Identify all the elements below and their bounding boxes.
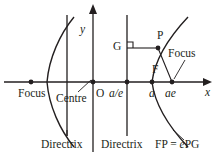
y-axis-label: y <box>80 24 85 36</box>
right-focus-point <box>170 80 175 85</box>
directrix-x-tick-label: a/e <box>109 88 123 100</box>
right-directrix-intercept-point <box>125 80 130 85</box>
focus-x-tick-label: ae <box>165 88 176 100</box>
point-p-label: P <box>157 30 163 42</box>
right-directrix-label: Directrix <box>101 139 143 151</box>
origin-point <box>91 80 96 85</box>
vertex-x-tick-label: a <box>149 88 155 100</box>
right-angle-marker-icon <box>127 42 133 48</box>
relation-prefix: FP = <box>155 138 180 150</box>
left-focus-point <box>29 80 34 85</box>
x-axis-label: x <box>205 87 210 99</box>
y-axis <box>89 4 97 152</box>
right-focus-label: Focus <box>168 48 195 60</box>
left-focus-label: Focus <box>18 88 45 100</box>
point-g-label: G <box>113 41 121 53</box>
hyperbola-diagram: y x Focus Centre O a/e a ae Focus P G F … <box>0 0 220 163</box>
point-p-marker <box>156 46 161 51</box>
vertex-point <box>150 80 155 85</box>
relation-suffix: PG <box>185 138 200 150</box>
focus-directrix-relation: FP = ePG <box>155 139 199 151</box>
left-directrix-label: Directrix <box>41 139 83 151</box>
centre-label: Centre <box>56 93 87 105</box>
x-axis <box>4 78 212 86</box>
point-f-label: F <box>152 64 158 76</box>
focus-leader-line <box>174 60 185 79</box>
origin-label: O <box>96 88 104 100</box>
